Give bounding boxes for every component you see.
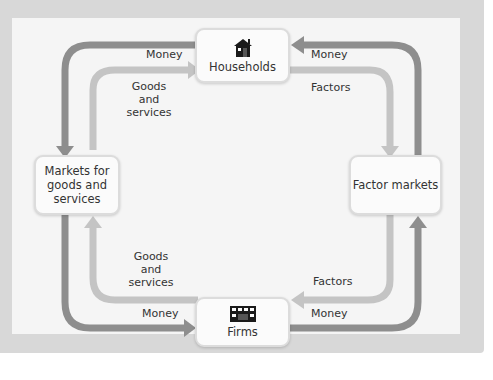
goods-markets-label: Markets for goods and services <box>45 164 110 206</box>
flow-label-bottom-left-goods: Goods and services <box>128 250 174 289</box>
factor-markets-label: Factor markets <box>353 178 439 192</box>
money-flow-factor-market-to-households <box>302 45 418 158</box>
firms-node[interactable]: Firms <box>195 297 290 347</box>
flow-label-bottom-left-money: Money <box>142 307 178 320</box>
households-label: Households <box>209 60 276 74</box>
flow-label-top-right-factors: Factors <box>311 81 350 94</box>
flow-label-bottom-right-money: Money <box>311 307 347 320</box>
arrowhead-up-icon <box>409 216 427 228</box>
flow-label-top-left-money: Money <box>146 48 182 61</box>
house-icon <box>232 38 254 58</box>
factor-markets-node[interactable]: Factor markets <box>349 155 442 215</box>
arrowhead-left-icon <box>291 291 304 309</box>
arrowhead-left-icon <box>291 36 304 54</box>
firms-label: Firms <box>227 325 258 339</box>
flow-label-bottom-right-factors: Factors <box>313 275 352 288</box>
households-node[interactable]: Households <box>195 28 290 83</box>
flow-label-top-right-money: Money <box>311 48 347 61</box>
factory-building-icon <box>229 305 257 323</box>
arrowhead-up-icon <box>84 216 102 228</box>
money-flow-firms-to-factor-market <box>290 226 418 328</box>
goods-markets-node[interactable]: Markets for goods and services <box>34 155 120 215</box>
flow-label-top-left-goods: Goods and services <box>126 80 172 119</box>
